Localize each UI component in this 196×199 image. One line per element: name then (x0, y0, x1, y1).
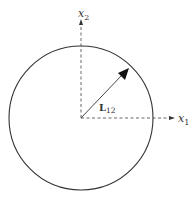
diagram-canvas: x2 x1 L12 (0, 0, 196, 199)
x2-axis-label: x2 (78, 7, 89, 22)
x1-arrowhead-icon (169, 116, 175, 120)
vector-arrowhead-icon (118, 68, 129, 80)
vector-label: L12 (99, 102, 116, 115)
x1-axis-label: x1 (178, 112, 189, 127)
x1-axis (81, 116, 175, 120)
x2-axis (79, 19, 83, 118)
